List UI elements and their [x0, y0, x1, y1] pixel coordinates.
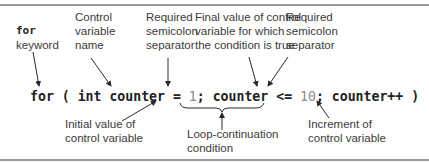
arrow-for-keyword [33, 52, 39, 86]
arrow-control-variable [91, 58, 111, 86]
arrow-final-value [249, 57, 257, 86]
brace-loop-condition [180, 103, 264, 112]
arrow-increment [317, 101, 329, 118]
arrow-initial-value [122, 101, 156, 121]
arrows-overlay [0, 0, 429, 163]
arrow-semicolon-2 [268, 57, 288, 86]
